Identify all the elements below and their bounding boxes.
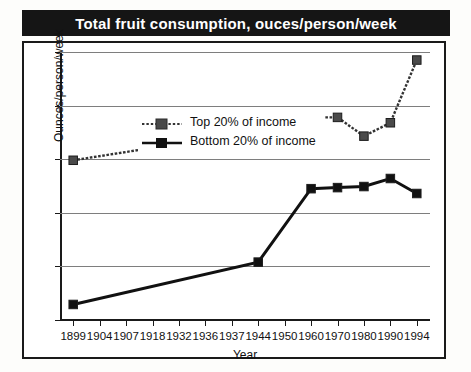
x-tick-label-1994: 1994 xyxy=(397,330,437,342)
x-tick-1970 xyxy=(338,320,339,326)
page-title: Total fruit consumption, ouces/person/we… xyxy=(75,15,397,32)
data-point-marker xyxy=(360,182,369,191)
x-tick-1932 xyxy=(179,320,180,326)
data-point-marker xyxy=(69,300,78,309)
legend-swatch-dotted-square-icon xyxy=(142,116,182,128)
legend-item-bottom: Bottom 20% of income xyxy=(142,131,316,150)
y-tick-0 xyxy=(55,320,60,321)
data-point-marker xyxy=(254,258,263,267)
x-tick-1937 xyxy=(232,320,233,326)
x-tick-1980 xyxy=(364,320,365,326)
data-point-marker xyxy=(333,183,342,192)
chart-title-bar: Total fruit consumption, ouces/person/we… xyxy=(22,10,450,36)
data-point-marker xyxy=(69,156,78,165)
chart-figure: Total fruit consumption, ouces/person/we… xyxy=(0,0,471,372)
x-tick-1899 xyxy=(73,320,74,326)
data-point-marker xyxy=(413,56,422,65)
series-plot xyxy=(60,52,430,320)
x-tick-1918 xyxy=(153,320,154,326)
legend-label-top: Top 20% of income xyxy=(190,115,296,129)
data-point-marker xyxy=(333,113,342,122)
x-tick-1994 xyxy=(417,320,418,326)
data-point-marker xyxy=(386,174,395,183)
x-tick-1950 xyxy=(285,320,286,326)
data-point-marker xyxy=(307,184,316,193)
x-axis-title: Year xyxy=(60,348,430,362)
x-tick-1904 xyxy=(100,320,101,326)
legend-label-bottom: Bottom 20% of income xyxy=(190,134,316,148)
x-tick-1944 xyxy=(258,320,259,326)
series-line-1 xyxy=(73,179,417,305)
data-point-marker xyxy=(386,119,395,128)
data-point-marker xyxy=(360,132,369,141)
legend-item-top: Top 20% of income xyxy=(142,112,316,131)
x-tick-1936 xyxy=(205,320,206,326)
chart-legend: Top 20% of income Bottom 20% of income xyxy=(138,110,324,153)
x-tick-1990 xyxy=(390,320,391,326)
legend-swatch-solid-square-icon xyxy=(142,135,182,147)
x-tick-1907 xyxy=(126,320,127,326)
x-tick-1960 xyxy=(311,320,312,326)
plot-area: 01020304050 Ounces/person/week 189919041… xyxy=(60,52,430,320)
data-point-marker xyxy=(413,189,422,198)
